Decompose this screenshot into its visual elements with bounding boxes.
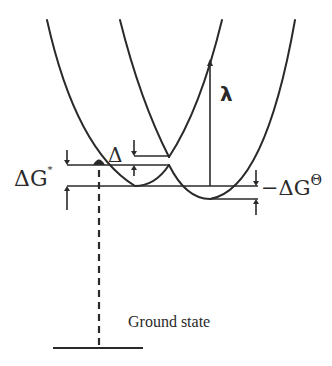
crossing-point-marker bbox=[93, 160, 105, 166]
neg-delta-g-text: −ΔG bbox=[261, 176, 311, 200]
delta-g-star-sup: * bbox=[47, 164, 52, 175]
delta-g-star-text: ΔG bbox=[14, 166, 47, 191]
upper-surface-right-branch bbox=[169, 20, 222, 157]
delta-label: Δ bbox=[108, 143, 122, 167]
product-parabola-lower bbox=[169, 20, 295, 199]
lambda-label: λ bbox=[220, 82, 233, 106]
neg-delta-g-standard-label: −ΔGΘ bbox=[261, 176, 322, 200]
standard-state-symbol: Θ bbox=[311, 172, 322, 188]
delta-g-star-label: ΔG* bbox=[14, 166, 52, 191]
ground-state-label: Ground state bbox=[128, 313, 210, 331]
upper-surface-left-branch bbox=[120, 20, 169, 157]
